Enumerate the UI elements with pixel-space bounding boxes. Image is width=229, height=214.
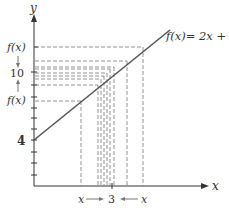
- x-right-label: x: [141, 193, 148, 206]
- limit-value-label: 10: [10, 67, 24, 80]
- x-limit-label: 3: [108, 193, 115, 206]
- fx-lower-label: f(x): [6, 94, 26, 107]
- x-axis-arrow-icon: [201, 183, 209, 189]
- x-left-label: x: [78, 193, 85, 206]
- y-axis-arrow-icon: [31, 14, 37, 22]
- fx-upper-label: f(x): [6, 41, 26, 54]
- left-arrow-icon: [120, 197, 138, 201]
- right-arrow-icon: [86, 197, 104, 201]
- x-axis-label: x: [212, 179, 219, 193]
- function-label: f(x)= 2x + 4: [165, 29, 229, 43]
- limit-diagram: y x f(x)= 2x + 4 4 10 f(x) f(x) x 3 x: [0, 0, 229, 214]
- vertical-dashes: [81, 47, 143, 186]
- up-arrow-icon: [16, 79, 20, 92]
- y-intercept-label: 4: [17, 134, 25, 148]
- y-axis-label: y: [29, 1, 37, 15]
